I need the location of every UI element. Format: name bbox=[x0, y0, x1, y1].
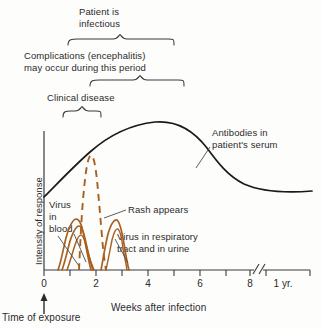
figure-root: Patient is infectious Complications (enc… bbox=[0, 0, 322, 328]
curve-virus-respiratory bbox=[101, 220, 129, 270]
plot-vector-layer bbox=[0, 0, 322, 328]
bracket-patient-infectious bbox=[68, 35, 174, 46]
bracket-clinical-disease bbox=[63, 107, 101, 118]
bracket-complications bbox=[90, 76, 184, 87]
time-of-exposure-arrow bbox=[41, 293, 48, 314]
x-axis-ticks bbox=[44, 270, 310, 276]
leader-lines bbox=[58, 147, 210, 266]
curve-rash-appears bbox=[79, 155, 106, 270]
axis-lines bbox=[44, 131, 310, 274]
